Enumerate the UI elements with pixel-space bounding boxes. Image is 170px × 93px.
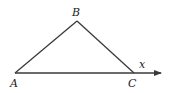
segment-ab — [15, 21, 77, 73]
label-x: x — [139, 58, 146, 71]
triangle-diagram: B A C x — [0, 0, 170, 93]
segment-bc — [77, 21, 134, 73]
label-b: B — [71, 6, 80, 19]
label-a: A — [9, 77, 18, 90]
label-c: C — [128, 77, 137, 90]
